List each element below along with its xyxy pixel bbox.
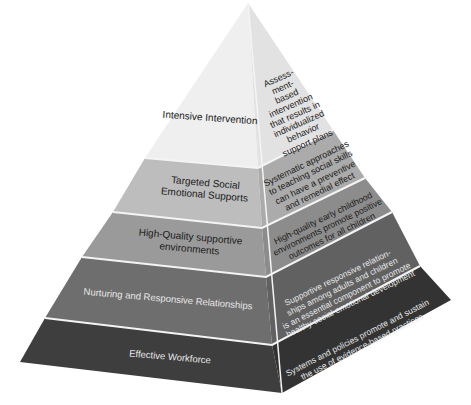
level-1-left-face	[145, 3, 258, 168]
